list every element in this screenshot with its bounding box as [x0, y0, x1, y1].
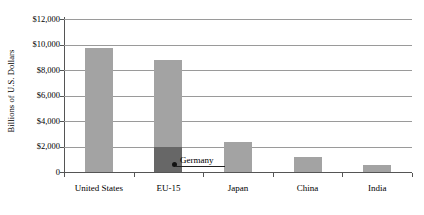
bar-united-states	[85, 48, 113, 172]
bar-china	[294, 157, 322, 172]
x-axis-tick-mark	[203, 173, 204, 177]
y-axis-tick-label: $6,000	[16, 91, 60, 100]
y-axis-tick-labels: 0$2,000$4,000$6,000$8,000$10,000$12,000	[14, 0, 60, 215]
gridline	[64, 19, 412, 20]
x-axis-tick-mark	[134, 173, 135, 177]
y-axis-tick-mark	[60, 121, 64, 122]
x-axis-tick-mark	[412, 173, 413, 177]
plot-area	[64, 19, 412, 172]
y-axis-tick-label: $10,000	[16, 40, 60, 49]
gridline	[64, 96, 412, 97]
y-axis-tick-label: $4,000	[16, 117, 60, 126]
y-axis-tick-label: $12,000	[16, 15, 60, 24]
y-axis-tick-label: $2,000	[16, 142, 60, 151]
x-axis-tick-mark	[64, 173, 65, 177]
germany-annotation-label: Germany	[180, 155, 214, 166]
bar-sub-germany	[154, 147, 182, 173]
y-axis-tick-mark	[60, 45, 64, 46]
y-axis-tick-mark	[60, 147, 64, 148]
x-axis-label-china: China	[273, 183, 343, 194]
bar-chart: Billions of U.S. Dollars 0$2,000$4,000$6…	[0, 0, 424, 215]
y-axis-tick-mark	[60, 70, 64, 71]
gridline	[64, 121, 412, 122]
y-axis-tick-mark	[60, 96, 64, 97]
x-axis-tick-mark	[273, 173, 274, 177]
x-axis-line	[64, 172, 412, 173]
x-axis-label-eu-15: EU-15	[134, 183, 204, 194]
bar-india	[363, 165, 391, 172]
y-axis-tick-label: 0	[16, 168, 60, 177]
x-axis-tick-mark	[342, 173, 343, 177]
y-axis-tick-label: $8,000	[16, 66, 60, 75]
y-axis-tick-mark	[60, 19, 64, 20]
bar-japan	[224, 142, 252, 172]
x-axis-label-japan: Japan	[203, 183, 273, 194]
gridline	[64, 45, 412, 46]
germany-leader-line	[175, 166, 225, 167]
x-axis-label-united-states: United States	[64, 183, 134, 194]
x-axis-label-india: India	[342, 183, 412, 194]
gridline	[64, 70, 412, 71]
